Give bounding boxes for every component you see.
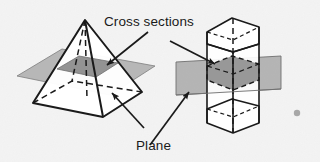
cross-sections-figure: Cross sections Plane <box>0 0 320 162</box>
label-plane: Plane <box>136 138 171 153</box>
scan-speck-icon <box>294 110 300 116</box>
label-cross-sections: Cross sections <box>104 14 194 29</box>
